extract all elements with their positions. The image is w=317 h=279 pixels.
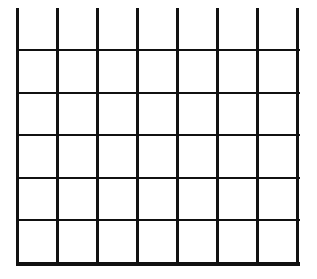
- grid-vertical-line: [56, 8, 59, 265]
- grid-bottom-line: [16, 262, 300, 266]
- grid-horizontal-line: [17, 92, 300, 94]
- grid-vertical-line: [136, 8, 139, 265]
- grid-horizontal-line: [17, 177, 300, 179]
- grid-vertical-line: [256, 8, 259, 265]
- grid-horizontal-line: [17, 49, 300, 51]
- grid-horizontal-line: [17, 219, 300, 221]
- grid-vertical-line: [16, 8, 19, 265]
- grid-vertical-line: [96, 8, 99, 265]
- grid-vertical-line: [296, 8, 299, 265]
- grid-horizontal-line: [17, 134, 300, 136]
- grid-vertical-line: [216, 8, 219, 265]
- grid-vertical-line: [176, 8, 179, 265]
